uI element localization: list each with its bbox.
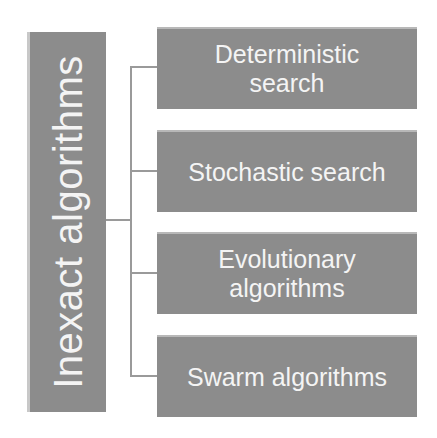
connector-branch-2 (130, 170, 157, 172)
child-node-swarm-algorithms: Swarm algorithms (157, 335, 417, 417)
connector-trunk (130, 66, 132, 376)
child-node-label: Evolutionary algorithms (218, 245, 356, 303)
root-node-inexact-algorithms: Inexact algorithms (27, 32, 106, 412)
connector-branch-3 (130, 272, 157, 274)
child-node-label: Stochastic search (188, 158, 385, 187)
connector-branch-4 (130, 375, 157, 377)
child-node-label: Deterministic search (215, 40, 359, 98)
root-node-label: Inexact algorithms (46, 55, 91, 389)
connector-branch-1 (130, 66, 157, 68)
connector-root-to-trunk (106, 219, 131, 221)
child-node-deterministic-search: Deterministic search (157, 27, 417, 109)
child-node-evolutionary-algorithms: Evolutionary algorithms (157, 232, 417, 314)
child-node-stochastic-search: Stochastic search (157, 130, 417, 212)
child-node-label: Swarm algorithms (187, 363, 387, 392)
